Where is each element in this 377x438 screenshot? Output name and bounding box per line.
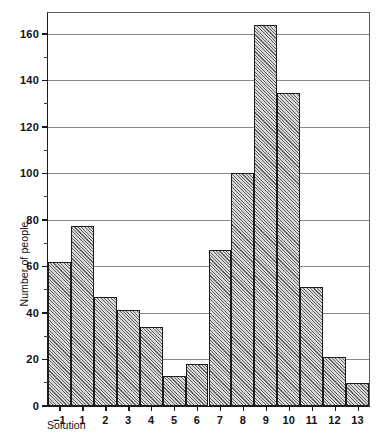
x-axis-tick-label: 4 <box>148 414 154 426</box>
x-axis-tick-label: 12 <box>328 414 341 426</box>
x-axis-tick-label: 8 <box>240 414 246 426</box>
y-axis-minor-tick <box>44 103 48 104</box>
plot-area: 020406080100120140160−112345678910111213 <box>47 12 370 407</box>
y-axis-minor-tick <box>44 150 48 151</box>
x-axis-tick-label: 2 <box>102 414 108 426</box>
x-axis-tick-label: 6 <box>194 414 200 426</box>
bar[interactable] <box>300 287 323 406</box>
gridline <box>48 127 369 128</box>
x-axis-tick-label: 13 <box>351 414 364 426</box>
x-axis-tick <box>266 406 267 411</box>
gridline <box>48 80 369 81</box>
x-axis-tick-label: 3 <box>125 414 131 426</box>
y-axis-tick-label: 40 <box>26 307 39 319</box>
bar[interactable] <box>94 297 117 406</box>
x-axis-title: Solution <box>47 419 86 431</box>
y-axis-tick-label: 80 <box>26 214 39 226</box>
bar[interactable] <box>117 310 140 407</box>
x-axis-tick <box>82 406 83 411</box>
x-axis-tick <box>289 406 290 411</box>
bar[interactable] <box>48 262 71 406</box>
y-axis-tick-label: 160 <box>20 28 39 40</box>
y-axis-tick <box>42 80 48 81</box>
bar[interactable] <box>231 173 254 406</box>
x-axis-tick <box>151 406 152 411</box>
y-axis-minor-tick <box>44 243 48 244</box>
gridline <box>48 34 369 35</box>
bar[interactable] <box>254 25 277 406</box>
x-axis-tick <box>105 406 106 411</box>
x-axis-tick-label: 10 <box>282 414 295 426</box>
x-axis-tick <box>197 406 198 411</box>
x-axis-tick <box>243 406 244 411</box>
x-axis-tick <box>59 406 60 411</box>
x-axis-tick <box>128 406 129 411</box>
gridline <box>48 173 369 174</box>
x-axis-tick <box>312 406 313 411</box>
bar[interactable] <box>163 376 186 406</box>
y-axis-tick-label: 0 <box>33 400 39 412</box>
y-axis-minor-tick <box>44 57 48 58</box>
bar-chart: Number of people 020406080100120140160−1… <box>0 0 377 438</box>
gridline <box>48 220 369 221</box>
x-axis-tick <box>335 406 336 411</box>
y-axis-tick-label: 140 <box>20 74 39 86</box>
y-axis-tick <box>42 173 48 174</box>
bar[interactable] <box>209 250 232 406</box>
y-axis-minor-tick <box>44 196 48 197</box>
bar[interactable] <box>140 327 163 406</box>
bar[interactable] <box>346 383 369 406</box>
x-axis-tick <box>220 406 221 411</box>
bar[interactable] <box>71 226 94 406</box>
x-axis-tick <box>174 406 175 411</box>
x-axis-tick-label: 11 <box>306 414 318 426</box>
y-axis-tick-label: 100 <box>20 167 39 179</box>
x-axis-tick-label: 9 <box>263 414 269 426</box>
bar[interactable] <box>323 357 346 406</box>
bar[interactable] <box>186 364 209 406</box>
x-axis-tick-label: 5 <box>171 414 177 426</box>
x-axis-tick <box>358 406 359 411</box>
y-axis-tick-label: 60 <box>26 260 39 272</box>
y-axis-tick <box>42 126 48 127</box>
y-axis-tick <box>42 219 48 220</box>
bar[interactable] <box>277 93 300 406</box>
x-axis-tick-label: 7 <box>217 414 223 426</box>
y-axis-tick-label: 120 <box>20 121 39 133</box>
y-axis-tick <box>42 33 48 34</box>
y-axis-tick-label: 20 <box>26 353 39 365</box>
